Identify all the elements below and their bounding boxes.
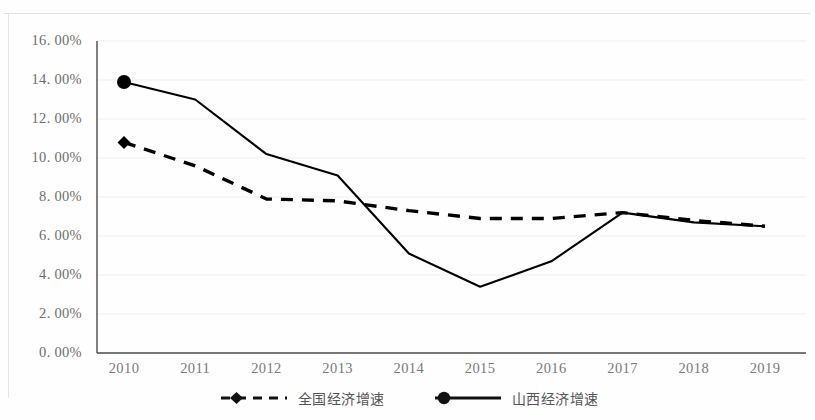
series-line-shanxi — [124, 82, 765, 287]
y-tick-label: 2. 00% — [6, 305, 82, 322]
y-tick-label: 6. 00% — [6, 227, 82, 244]
data-series-layer — [117, 75, 765, 287]
legend-swatch-solid-circle — [431, 390, 505, 406]
y-tick-label: 12. 00% — [6, 110, 82, 127]
y-tick-label: 8. 00% — [6, 188, 82, 205]
x-tick-label: 2015 — [450, 360, 510, 377]
data-marker-shanxi — [117, 75, 131, 89]
x-tick-label: 2011 — [165, 360, 225, 377]
y-tick-label: 4. 00% — [6, 266, 82, 283]
series-line-national — [124, 142, 765, 226]
y-tick-label: 16. 00% — [6, 32, 82, 49]
data-marker-national — [118, 136, 131, 149]
plot-area — [0, 0, 815, 420]
y-tick-label: 10. 00% — [6, 149, 82, 166]
y-tick-label: 14. 00% — [6, 71, 82, 88]
x-tick-label: 2018 — [664, 360, 724, 377]
economic-growth-line-chart: 16. 00%14. 00%12. 00%10. 00%8. 00%6. 00%… — [0, 0, 815, 420]
legend-entry-national: 全国经济增速 — [217, 388, 385, 408]
legend-swatch-dashed-diamond — [217, 390, 291, 406]
legend-label-national: 全国经济增速 — [298, 388, 385, 408]
x-tick-label: 2013 — [308, 360, 368, 377]
x-tick-label: 2019 — [735, 360, 795, 377]
x-tick-label: 2016 — [521, 360, 581, 377]
x-tick-label: 2014 — [379, 360, 439, 377]
chart-legend: 全国经济增速 山西经济增速 — [0, 388, 815, 408]
x-tick-label: 2012 — [236, 360, 296, 377]
y-tick-label: 0. 00% — [6, 344, 82, 361]
x-tick-label: 2017 — [593, 360, 653, 377]
legend-entry-shanxi: 山西经济增速 — [431, 388, 599, 408]
x-tick-label: 2010 — [94, 360, 154, 377]
legend-label-shanxi: 山西经济增速 — [512, 388, 599, 408]
